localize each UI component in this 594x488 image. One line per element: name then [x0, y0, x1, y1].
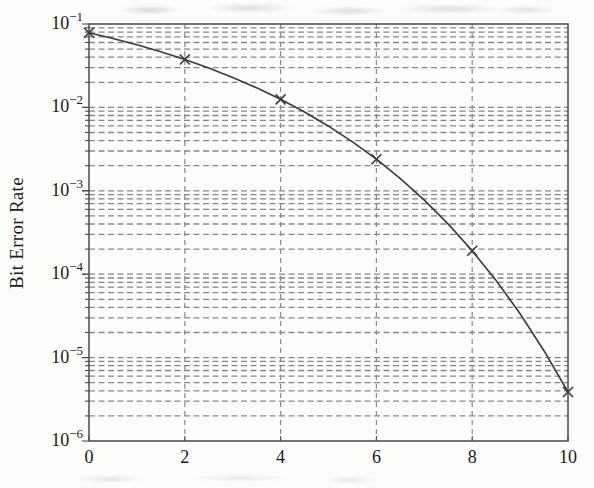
x-tick-label: 0 — [85, 447, 94, 467]
y-axis-label: Bit Error Rate — [6, 177, 28, 289]
grid — [89, 24, 568, 441]
series — [84, 28, 573, 397]
x-tick-label: 10 — [559, 447, 577, 467]
y-tick-label: 10−2 — [51, 92, 83, 116]
x-marker — [467, 246, 477, 256]
tick-labels: 10−110−210−310−410−510−60246810 — [51, 9, 577, 467]
y-tick-label: 10−6 — [51, 426, 83, 450]
axes — [82, 24, 568, 441]
x-tick-label: 8 — [468, 447, 477, 467]
y-tick-label: 10−3 — [51, 176, 83, 200]
y-tick-label: 10−5 — [51, 343, 83, 367]
ber-chart: 10−110−210−310−410−510−60246810 — [0, 0, 594, 488]
x-tick-label: 2 — [180, 447, 189, 467]
ber-figure: Bit Error Rate 10−110−210−310−410−510−60… — [0, 0, 594, 488]
ber-curve — [89, 33, 568, 392]
y-tick-label: 10−4 — [51, 259, 83, 283]
x-marker — [276, 94, 286, 104]
x-tick-label: 6 — [372, 447, 381, 467]
y-tick-label: 10−1 — [51, 9, 83, 33]
x-tick-label: 4 — [276, 447, 285, 467]
